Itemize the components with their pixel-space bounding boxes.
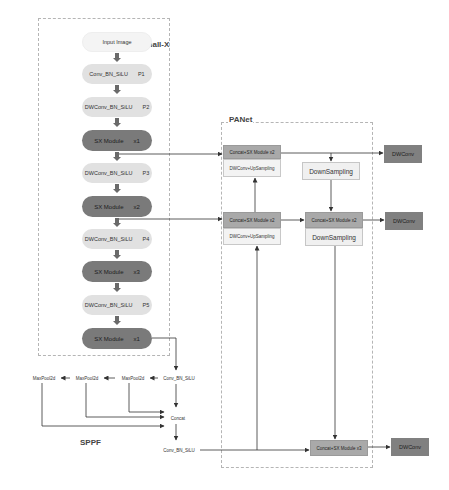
backbone-thick-arrows: [113, 53, 121, 325]
connector-lines: [0, 0, 449, 490]
